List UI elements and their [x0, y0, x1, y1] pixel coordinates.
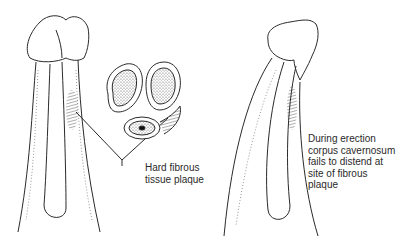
diagram-canvas: Hard fibrous tissue plaque During erecti…	[0, 0, 419, 245]
plaque-label-line-1: Hard fibrous	[145, 162, 204, 174]
erection-label: During erection corpus cavernosum fails …	[308, 133, 395, 191]
erection-label-line-1: During erection	[308, 133, 395, 145]
plaque-label: Hard fibrous tissue plaque	[145, 162, 204, 185]
erection-label-line-4: site of fibrous	[308, 168, 395, 180]
erect-view	[224, 20, 318, 236]
erection-label-line-3: fails to distend at	[308, 156, 395, 168]
cross-section	[107, 62, 181, 139]
illustration	[0, 0, 419, 245]
erection-label-line-2: corpus cavernosum	[308, 145, 395, 157]
erection-label-line-5: plaque	[308, 179, 395, 191]
plaque-label-line-2: tissue plaque	[145, 174, 204, 186]
